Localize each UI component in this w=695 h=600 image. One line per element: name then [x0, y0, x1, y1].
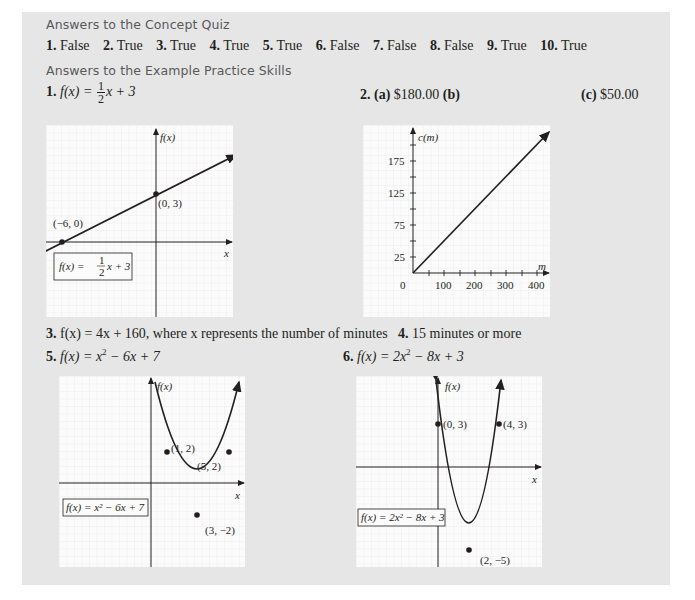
y-axis-label: f(x): [445, 380, 461, 393]
answer-6: 6. f(x) = 2x2 − 8x + 3: [343, 347, 464, 365]
legend-equation: f(x) = x² − 6x + 7: [66, 501, 145, 514]
quiz-answer: 10. True: [540, 38, 587, 53]
fraction: 12: [97, 80, 105, 105]
graph-quadratic-2: f(x) x (0, 3) (4, 3) (2, −5) f(x) = 2x² …: [356, 376, 542, 567]
quiz-answer: 7. False: [373, 38, 417, 53]
answer-2: 2. (a) $180.00 (b): [360, 87, 460, 103]
point-label: (−6, 0): [53, 217, 83, 230]
concept-quiz-heading: Answers to the Concept Quiz: [46, 17, 230, 32]
point-label: (5, 2): [197, 460, 221, 473]
answer-5: 5. f(x) = x2 − 6x + 7: [46, 347, 160, 365]
legend-equation: f(x) =: [59, 260, 84, 273]
practice-heading: Answers to the Example Practice Skills: [46, 63, 292, 78]
legend-rhs: x + 3: [106, 260, 131, 272]
quiz-answer: 2. True: [103, 38, 143, 53]
legend-numerator: 1: [99, 254, 105, 266]
point-label: (1, 2): [171, 442, 195, 455]
y-tick: 125: [388, 187, 405, 199]
quiz-answer: 5. True: [263, 38, 303, 53]
x-axis-label: x: [223, 247, 229, 259]
quiz-answer: 9. True: [487, 38, 527, 53]
y-tick: 75: [394, 219, 406, 231]
quiz-answer: 1. False: [46, 38, 90, 53]
x-tick: 0: [400, 279, 406, 291]
quiz-answer: 8. False: [430, 38, 474, 53]
answer-1: 1. f(x) = 12x + 3: [46, 80, 136, 105]
vertex-label: (3, −2): [205, 524, 235, 537]
answer-2c: (c) $50.00: [581, 87, 639, 103]
x-axis-label: m: [538, 260, 546, 272]
point-label: (4, 3): [503, 418, 527, 431]
y-axis-label: f(x): [160, 131, 176, 144]
x-tick: 300: [497, 279, 514, 291]
x-axis-label: x: [531, 473, 537, 485]
concept-quiz-answers: 1. False 2. True 3. True 4. True 5. True…: [46, 38, 597, 54]
graph-quadratic-1: f(x) x (1, 2) (5, 2) (3, −2) f(x) = x² −…: [59, 376, 245, 567]
quiz-answer: 6. False: [316, 38, 360, 53]
y-tick: 25: [394, 251, 406, 263]
x-tick: 200: [466, 279, 483, 291]
y-axis-label: f(x): [157, 380, 173, 393]
graph-cost: c(m) m 175 125 75 25 0 100 200 300 400: [363, 125, 550, 317]
quiz-answer: 3. True: [156, 38, 196, 53]
answer-3-4: 3. f(x) = 4x + 160, where x represents t…: [46, 326, 521, 342]
legend-denominator: 2: [99, 266, 105, 278]
y-tick: 175: [388, 155, 405, 167]
quiz-answer: 4. True: [209, 38, 249, 53]
x-tick: 400: [528, 279, 545, 291]
graph-linear: f(x) x (0, 3) (−6, 0) f(x) = 1 2 x + 3: [46, 125, 233, 317]
legend-equation: f(x) = 2x² − 8x + 3: [361, 511, 445, 524]
point-label: (0, 3): [158, 197, 182, 210]
point-label: (0, 3): [443, 418, 467, 431]
x-axis-label: x: [234, 489, 240, 501]
vertex-label: (2, −5): [480, 554, 510, 567]
x-tick: 100: [435, 279, 452, 291]
y-axis-label: c(m): [418, 131, 438, 144]
